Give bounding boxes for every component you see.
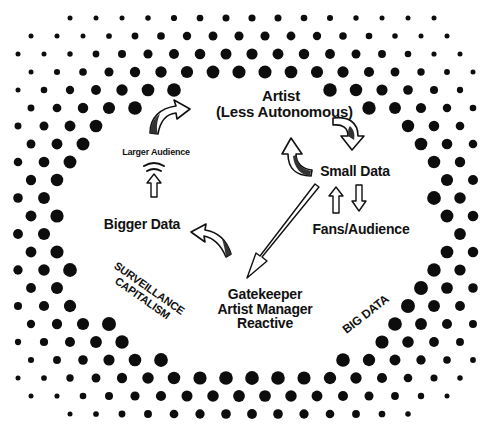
fans-audience-label: Fans/Audience [313, 221, 410, 237]
node-small-data: Small Data [310, 164, 400, 179]
curved-arrow-icon [282, 138, 312, 176]
diagram-canvas: Artist (Less Autonomous) Larger Audience… [0, 0, 491, 427]
curved-arrow-icon [150, 100, 190, 134]
bigger-data-label: Bigger Data [104, 216, 180, 232]
node-gatekeeper: Gatekeeper Artist Manager Reactive [205, 287, 325, 331]
artist-sublabel: (Less Autonomous) [216, 104, 346, 120]
node-larger-audience: Larger Audience [112, 148, 200, 157]
arrows-layer [0, 0, 491, 427]
small-data-label: Small Data [320, 163, 390, 179]
down-arrow-icon [352, 185, 366, 211]
up-arrow-icon [147, 174, 161, 197]
reactive-label: Reactive [205, 316, 325, 331]
curved-arrow-icon [191, 224, 231, 257]
broadcast-waves-icon [144, 163, 164, 171]
node-bigger-data: Bigger Data [94, 217, 190, 232]
node-fans-audience: Fans/Audience [306, 222, 416, 237]
gatekeeper-label: Gatekeeper [205, 287, 325, 302]
artist-label: Artist [216, 88, 346, 104]
larger-audience-label: Larger Audience [122, 147, 190, 157]
node-artist: Artist (Less Autonomous) [216, 88, 346, 120]
up-arrow-icon [329, 187, 343, 213]
curved-arrow-icon [333, 118, 364, 150]
artist-manager-label: Artist Manager [205, 302, 325, 317]
